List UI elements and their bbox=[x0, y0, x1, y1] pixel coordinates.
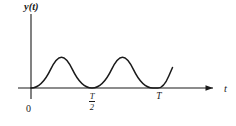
fraction-t-over-2: T 2 bbox=[89, 92, 96, 112]
fraction-numerator: T bbox=[89, 92, 96, 101]
x-axis-label: t bbox=[224, 84, 227, 95]
fraction-denominator: 2 bbox=[89, 103, 96, 112]
plot-canvas bbox=[0, 0, 236, 126]
y-axis-label: y(t) bbox=[24, 2, 39, 13]
waveform-figure: y(t) t 0 T 2 T bbox=[0, 0, 236, 126]
waveform-curve bbox=[31, 57, 173, 88]
tick-label-period: T bbox=[152, 92, 166, 102]
origin-label: 0 bbox=[26, 104, 31, 114]
tick-label-half-period: T 2 bbox=[84, 92, 100, 112]
x-axis-arrowhead bbox=[206, 85, 214, 91]
